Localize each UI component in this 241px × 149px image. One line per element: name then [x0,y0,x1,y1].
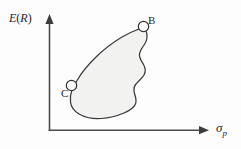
point-label-c: C [61,88,68,99]
y-axis-label: E(R) [9,12,32,24]
y-axis-label-arg: R [20,11,27,25]
x-axis-label: σp [216,121,227,138]
figure-canvas [0,0,241,149]
x-axis-arrowhead-icon [199,126,209,134]
feasible-set-region-shape [70,28,147,119]
x-axis-label-subscript: p [222,128,227,138]
figure-container: E(R) σp B C [0,0,241,149]
point-label-b: B [148,15,155,26]
y-axis-label-close-paren: ) [28,11,32,25]
y-axis-arrowhead-icon [45,14,53,24]
